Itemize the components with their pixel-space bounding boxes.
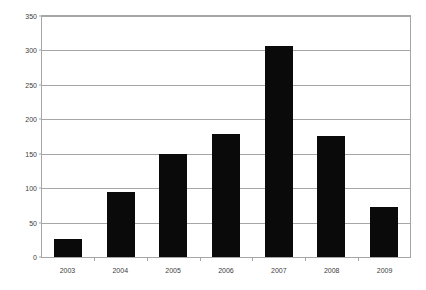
y-axis-tick-label: 300 <box>25 47 37 54</box>
x-axis-tick-mark <box>305 258 306 261</box>
bar[interactable] <box>107 192 135 257</box>
plot-area: 050100150200250300350 <box>41 15 411 258</box>
x-axis-tick-slot: 2004 <box>94 258 147 288</box>
x-axis-tick-slot: 2003 <box>41 258 94 288</box>
bar-slot <box>147 16 200 257</box>
y-axis-tick-label: 0 <box>33 254 37 261</box>
x-axis-tick-slot: 2006 <box>200 258 253 288</box>
bar-slot <box>357 16 410 257</box>
y-axis-tick-label: 150 <box>25 150 37 157</box>
x-axis-tick-slot: 2005 <box>147 258 200 288</box>
bar[interactable] <box>265 46 293 257</box>
x-axis-tick-label: 2007 <box>271 267 287 274</box>
y-axis-tick-label: 250 <box>25 81 37 88</box>
y-axis-tick-label: 100 <box>25 185 37 192</box>
bar-slot <box>95 16 148 257</box>
x-axis-tick-label: 2003 <box>60 267 76 274</box>
x-axis-tick-mark <box>200 258 201 261</box>
bar[interactable] <box>317 136 345 257</box>
x-axis-tick-label: 2004 <box>112 267 128 274</box>
x-axis-tick-label: 2009 <box>377 267 393 274</box>
x-axis-tick-slot: 2007 <box>252 258 305 288</box>
bar-slot <box>305 16 358 257</box>
bar[interactable] <box>159 154 187 257</box>
x-axis-tick-mark <box>252 258 253 261</box>
bars-group <box>42 16 410 257</box>
x-axis-tick-label: 2008 <box>324 267 340 274</box>
x-axis-tick-label: 2006 <box>218 267 234 274</box>
bar[interactable] <box>370 207 398 257</box>
bar[interactable] <box>212 134 240 257</box>
bar-slot <box>200 16 253 257</box>
bar-chart: 050100150200250300350 200320042005200620… <box>0 0 426 290</box>
bar-slot <box>42 16 95 257</box>
x-axis-tick-slot: 2008 <box>305 258 358 288</box>
x-axis-tick-mark <box>94 258 95 261</box>
x-axis-tick-mark <box>358 258 359 261</box>
x-axis: 2003200420052006200720082009 <box>41 258 411 288</box>
y-axis-tick-label: 200 <box>25 116 37 123</box>
x-axis-tick-mark <box>147 258 148 261</box>
bar-slot <box>252 16 305 257</box>
x-axis-tick-slot: 2009 <box>358 258 411 288</box>
y-axis-tick-label: 50 <box>29 219 37 226</box>
y-axis-tick-label: 350 <box>25 13 37 20</box>
bar[interactable] <box>54 239 82 257</box>
x-axis-tick-label: 2005 <box>165 267 181 274</box>
